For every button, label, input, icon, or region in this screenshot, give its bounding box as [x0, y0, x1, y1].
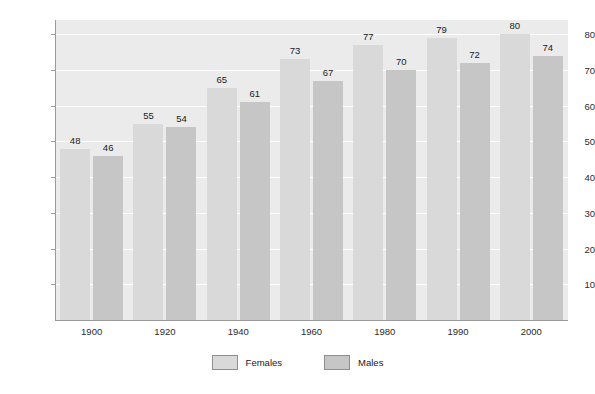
y-axis-line: [55, 20, 56, 321]
x-axis-line: [55, 320, 568, 321]
x-tick-label-2000: 2000: [521, 326, 542, 337]
bar-females-1960[interactable]: [280, 59, 310, 320]
bar-value-label: 77: [363, 31, 374, 42]
y-tick-mark: [51, 177, 55, 178]
y-tick-mark: [51, 106, 55, 107]
chart-legend: Females Males: [0, 355, 595, 370]
bar-females-2000[interactable]: [500, 34, 530, 320]
bar-males-1940[interactable]: [240, 102, 270, 320]
legend-label-males: Males: [358, 357, 383, 368]
x-tick-label-1960: 1960: [301, 326, 322, 337]
bar-value-label: 72: [469, 49, 480, 60]
bar-females-1920[interactable]: [133, 124, 163, 320]
y-tick-label: 10: [551, 279, 595, 290]
bar-females-1980[interactable]: [353, 45, 383, 320]
bar-males-1960[interactable]: [313, 81, 343, 320]
bar-chart: 4846555465617367777079728074 10203040506…: [0, 0, 595, 394]
bar-value-label: 74: [543, 42, 554, 53]
x-tick-label-1900: 1900: [81, 326, 102, 337]
bar-value-label: 70: [396, 56, 407, 67]
bar-females-1940[interactable]: [207, 88, 237, 320]
bar-value-label: 65: [216, 74, 227, 85]
legend-swatch-females-icon: [212, 355, 238, 370]
bar-females-1900[interactable]: [60, 149, 90, 320]
x-tick-label-1920: 1920: [154, 326, 175, 337]
legend-label-females: Females: [246, 357, 282, 368]
bar-males-1900[interactable]: [93, 156, 123, 320]
bar-value-label: 73: [290, 45, 301, 56]
bar-value-label: 61: [249, 88, 260, 99]
bar-females-1990[interactable]: [427, 38, 457, 320]
y-tick-mark: [51, 213, 55, 214]
y-tick-mark: [51, 249, 55, 250]
x-tick-label-1990: 1990: [447, 326, 468, 337]
bar-value-label: 79: [436, 24, 447, 35]
bar-value-label: 48: [70, 135, 81, 146]
y-tick-label: 80: [551, 29, 595, 40]
y-tick-mark: [51, 284, 55, 285]
y-tick-mark: [51, 34, 55, 35]
bar-value-label: 67: [323, 67, 334, 78]
bar-value-label: 55: [143, 110, 154, 121]
y-tick-mark: [51, 70, 55, 71]
y-tick-label: 60: [551, 100, 595, 111]
bar-males-1980[interactable]: [386, 70, 416, 320]
plot-area: 4846555465617367777079728074: [55, 20, 568, 320]
y-tick-label: 50: [551, 136, 595, 147]
bars-layer: 4846555465617367777079728074: [55, 20, 568, 320]
bar-value-label: 46: [103, 142, 114, 153]
x-tick-label-1940: 1940: [228, 326, 249, 337]
legend-item-females[interactable]: Females: [212, 355, 282, 370]
y-tick-label: 70: [551, 65, 595, 76]
bar-males-1920[interactable]: [166, 127, 196, 320]
bar-value-label: 80: [510, 20, 521, 31]
x-tick-label-1980: 1980: [374, 326, 395, 337]
bar-value-label: 54: [176, 113, 187, 124]
legend-item-males[interactable]: Males: [324, 355, 383, 370]
y-tick-label: 20: [551, 243, 595, 254]
bar-males-1990[interactable]: [460, 63, 490, 320]
y-tick-label: 40: [551, 172, 595, 183]
y-tick-mark: [51, 141, 55, 142]
y-tick-label: 30: [551, 207, 595, 218]
legend-swatch-males-icon: [324, 355, 350, 370]
